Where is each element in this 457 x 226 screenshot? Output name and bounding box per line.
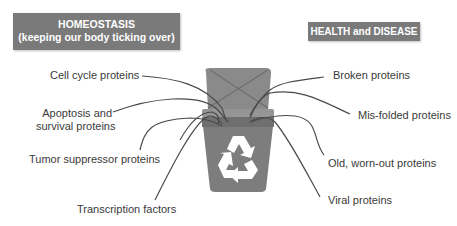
label-broken-proteins: Broken proteins — [333, 69, 410, 82]
label-old-wornout-proteins: Old, worn-out proteins — [328, 157, 436, 170]
label-apoptosis-line1: Apoptosis and — [36, 107, 112, 120]
label-cell-cycle-proteins: Cell cycle proteins — [50, 69, 139, 82]
bin-lid — [206, 68, 272, 110]
label-apoptosis: Apoptosis and survival proteins — [36, 107, 112, 133]
label-tumor-suppressor: Tumor suppressor proteins — [29, 153, 160, 166]
label-apoptosis-line2: survival proteins — [36, 120, 112, 133]
label-viral-proteins: Viral proteins — [328, 194, 392, 207]
label-misfolded-proteins: Mis-folded proteins — [358, 109, 451, 122]
label-transcription-factors: Transcription factors — [77, 203, 176, 216]
